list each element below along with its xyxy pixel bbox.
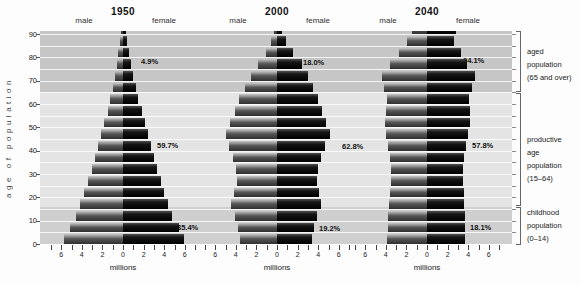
bar-female-1950-70-74 <box>123 71 133 81</box>
age-tick-label: 70 <box>21 76 37 85</box>
bar-female-2000-90+ <box>277 31 282 34</box>
bar-male-2040-35-39 <box>390 153 427 163</box>
x-tick-label: 4 <box>380 251 392 258</box>
bar-male-1950-40-44 <box>98 141 123 151</box>
bar-male-1950-5-9 <box>70 223 123 233</box>
x-tick <box>355 245 356 250</box>
bar-male-2000-50-54 <box>230 118 277 128</box>
band-label-line: productive <box>527 133 562 146</box>
bar-male-2040-55-59 <box>386 106 427 116</box>
millions-label: millions <box>387 263 467 272</box>
x-tick-label: 4 <box>462 251 474 258</box>
bar-male-2040-70-74 <box>382 71 427 81</box>
bar-female-2040-10-14 <box>427 211 465 221</box>
band-label-line: (0–14) <box>527 232 562 245</box>
x-tick <box>154 245 155 250</box>
x-tick <box>318 245 319 250</box>
bar-male-1950-50-54 <box>104 118 123 128</box>
edge-tick <box>512 232 516 233</box>
age-tick <box>36 244 40 245</box>
x-tick-label: 6 <box>333 251 345 258</box>
edge-tick <box>512 162 516 163</box>
bar-male-2040-85-89 <box>407 36 427 46</box>
bar-male-1950-60-64 <box>110 94 123 104</box>
x-tick-label: 4 <box>76 251 88 258</box>
x-tick <box>133 245 134 250</box>
bar-female-2040-50-54 <box>427 118 470 128</box>
bar-male-2040-20-24 <box>390 188 427 198</box>
x-tick <box>349 245 350 250</box>
bar-female-2000-0-4 <box>277 234 312 244</box>
bar-male-2000-40-44 <box>229 141 277 151</box>
edge-tick <box>512 92 516 93</box>
x-tick <box>479 245 480 250</box>
bar-male-1950-0-4 <box>64 234 123 244</box>
bar-male-2000-80-84 <box>266 48 277 58</box>
x-tick <box>448 245 449 250</box>
bar-male-2040-40-44 <box>388 141 427 151</box>
band-label-childhood: childhoodpopulation(0–14) <box>527 206 562 245</box>
edge-tick <box>512 34 516 35</box>
band-label-line: population <box>527 219 562 232</box>
bar-female-1950-45-49 <box>123 129 148 139</box>
x-tick <box>256 245 257 250</box>
band-label-line: aged <box>527 45 572 58</box>
bar-female-1950-30-34 <box>123 164 157 174</box>
bar-male-1950-10-14 <box>76 211 123 221</box>
x-tick <box>236 245 237 250</box>
bar-male-2000-75-79 <box>258 59 277 69</box>
edge-tick <box>512 81 516 82</box>
x-tick <box>329 245 330 250</box>
edge-tick <box>512 151 516 152</box>
edge-tick <box>512 139 516 140</box>
x-tick <box>499 245 500 250</box>
gridline <box>40 186 512 187</box>
x-tick-label: 4 <box>312 251 324 258</box>
bar-female-1950-80-84 <box>123 48 129 58</box>
x-tick <box>427 245 428 250</box>
x-tick-label: 4 <box>230 251 242 258</box>
bar-female-1950-60-64 <box>123 94 138 104</box>
bar-male-2040-25-29 <box>391 176 427 186</box>
bar-male-2000-25-29 <box>237 176 277 186</box>
x-tick-label: 6 <box>55 251 67 258</box>
bar-female-2000-50-54 <box>277 118 326 128</box>
x-tick-label: 0 <box>421 251 433 258</box>
bar-female-2000-65-69 <box>277 83 313 93</box>
bar-female-2040-45-49 <box>427 129 468 139</box>
bar-female-1950-5-9 <box>123 223 179 233</box>
bar-female-1950-85-89 <box>123 36 127 46</box>
gridline <box>40 162 512 163</box>
bar-female-2040-85-89 <box>427 36 454 46</box>
bar-male-1950-25-29 <box>88 176 123 186</box>
gridline <box>40 197 512 198</box>
x-tick <box>246 245 247 250</box>
bar-female-2040-25-29 <box>427 176 463 186</box>
x-tick <box>144 245 145 250</box>
bar-male-2000-10-14 <box>235 211 277 221</box>
bar-male-1950-70-74 <box>115 71 123 81</box>
bar-male-2040-5-9 <box>388 223 427 233</box>
bar-male-2040-80-84 <box>399 48 427 58</box>
gridline <box>40 127 512 128</box>
bar-female-2000-15-19 <box>277 199 321 209</box>
bar-male-1950-20-24 <box>84 188 123 198</box>
x-tick <box>339 245 340 250</box>
bar-male-2040-65-69 <box>384 83 427 93</box>
edge-tick <box>512 57 516 58</box>
x-tick <box>113 245 114 250</box>
x-tick <box>489 245 490 250</box>
bar-male-2000-65-69 <box>245 83 277 93</box>
x-tick <box>468 245 469 250</box>
x-tick-label: 4 <box>158 251 170 258</box>
y-axis-title-wrap: age of population <box>0 31 16 244</box>
bar-female-2000-55-59 <box>277 106 322 116</box>
band-label-line: population <box>527 159 562 172</box>
x-tick-label: 2 <box>292 251 304 258</box>
age-tick-label: 0 <box>21 240 37 249</box>
x-tick <box>82 245 83 250</box>
x-tick <box>298 245 299 250</box>
x-tick-label: 6 <box>359 251 371 258</box>
bar-male-1950-35-39 <box>95 153 123 163</box>
x-tick <box>51 245 52 250</box>
